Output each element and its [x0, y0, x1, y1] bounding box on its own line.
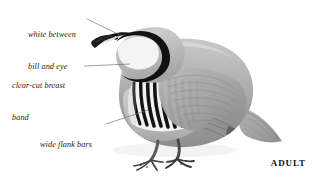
leader-line-wide-flank-bars [106, 110, 148, 124]
leader-line-clear-cut-breast [84, 64, 130, 66]
age-caption: ADULT [271, 158, 306, 168]
callout-line-1: white between [28, 30, 76, 41]
callout-label-wide-flank-bars: wide flank bars [40, 119, 92, 172]
field-guide-plate: white between bill and eye clear-cut bre… [0, 0, 315, 176]
callout-line-1: wide flank bars [40, 140, 92, 151]
callout-line-1: clear-cut breast [12, 81, 65, 92]
leader-line-white-between [87, 19, 122, 36]
